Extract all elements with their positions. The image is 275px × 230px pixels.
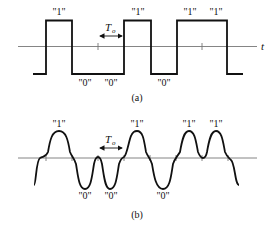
axis-label-t: t: [261, 40, 265, 52]
bit-label-1: "1": [131, 6, 144, 17]
period-subscript: o: [112, 139, 116, 147]
period-label: T: [105, 21, 112, 33]
bit-label-1: "1": [209, 118, 222, 129]
bit-label-1: "1": [52, 118, 65, 129]
bit-label-1: "1": [182, 118, 195, 129]
rectangular-waveform: [33, 21, 243, 75]
bit-label-1: "1": [183, 6, 196, 17]
panel-a: t T o "1" "1" "1" "1" "0" "0" "0" (a): [18, 6, 265, 104]
bit-label-1: "1": [209, 6, 222, 17]
caption-a: (a): [131, 92, 142, 104]
bit-label-0: "0": [156, 190, 169, 201]
bit-label-0: "0": [104, 77, 117, 88]
bit-label-1: "1": [52, 6, 65, 17]
bit-label-0: "0": [157, 77, 170, 88]
smoothed-pulse-waveform: [34, 131, 239, 189]
period-subscript: o: [112, 27, 116, 35]
bit-label-0: "0": [78, 77, 91, 88]
bit-label-0: "0": [104, 190, 117, 201]
bit-label-0: "0": [78, 190, 91, 201]
bit-waveform-diagram: t T o "1" "1" "1" "1" "0" "0" "0" (a) T …: [0, 0, 275, 230]
bit-label-1: "1": [130, 118, 143, 129]
period-label: T: [105, 133, 112, 145]
panel-b: T o "1" "1" "1" "1" "0" "0" "0" (b): [18, 118, 257, 221]
caption-b: (b): [131, 209, 143, 221]
